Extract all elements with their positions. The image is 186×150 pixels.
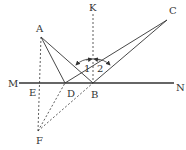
label-a: A bbox=[35, 23, 44, 34]
line-af-dashed bbox=[38, 37, 41, 131]
line-ad bbox=[41, 37, 65, 83]
line-fb-dashed bbox=[38, 83, 93, 131]
geometry-diagram: A K C M N E D B F 1 2 bbox=[0, 0, 186, 150]
angle-label-1: 1 bbox=[84, 63, 90, 74]
label-e: E bbox=[29, 87, 36, 98]
angle-label-2: 2 bbox=[97, 63, 103, 74]
line-bc bbox=[93, 20, 167, 83]
label-k: K bbox=[89, 2, 97, 13]
line-dc bbox=[65, 20, 167, 83]
label-m: M bbox=[8, 78, 18, 89]
label-d: D bbox=[67, 88, 75, 99]
label-n: N bbox=[176, 82, 185, 93]
label-b: B bbox=[91, 89, 98, 100]
label-f: F bbox=[36, 135, 43, 146]
line-fd-dashed bbox=[38, 83, 65, 131]
label-c: C bbox=[169, 5, 177, 16]
